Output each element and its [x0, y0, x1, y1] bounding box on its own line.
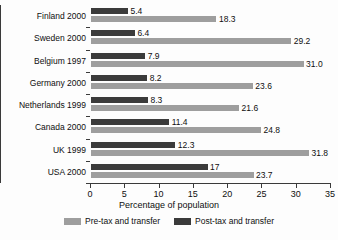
- chart-category-row: Finland 20005.418.3: [90, 5, 330, 27]
- category-label: Finland 2000: [37, 11, 86, 21]
- bar-value-label: 21.6: [242, 104, 259, 113]
- x-axis-tick-label: 5: [122, 189, 127, 200]
- bar-pre-tax: 23.7: [91, 172, 254, 178]
- category-label: Sweden 2000: [34, 33, 86, 43]
- x-axis-tick: [193, 184, 194, 188]
- chart-category-row: Sweden 20006.429.2: [90, 27, 330, 49]
- bar-value-label: 24.8: [264, 126, 281, 135]
- y-axis-line: [0, 5, 1, 183]
- x-axis-tick-label: 30: [291, 189, 301, 200]
- bar-pre-tax: 23.6: [91, 83, 253, 89]
- y-axis-tick: [86, 50, 90, 51]
- chart-category-row: Germany 20008.223.6: [90, 72, 330, 94]
- y-axis-tick: [86, 27, 90, 28]
- category-label: Netherlands 1999: [19, 100, 86, 110]
- x-axis-tick-label: 15: [188, 189, 198, 200]
- bar-value-label: 8.3: [150, 96, 162, 105]
- chart-category-row: Netherlands 19998.321.6: [90, 94, 330, 116]
- category-label: Canada 2000: [35, 122, 86, 132]
- category-label: USA 2000: [48, 167, 86, 177]
- bar-value-label: 29.2: [294, 37, 311, 46]
- bar-value-label: 5.4: [131, 7, 143, 16]
- bar-post-tax: 8.2: [91, 75, 147, 81]
- bar-post-tax: 8.3: [91, 97, 148, 103]
- y-axis-tick: [86, 94, 90, 95]
- category-label: Belgium 1997: [34, 56, 86, 66]
- bar-pre-tax: 24.8: [91, 127, 261, 133]
- bar-value-label: 6.4: [137, 29, 149, 38]
- x-axis-tick: [159, 184, 160, 188]
- x-axis-tick-label: 35: [325, 189, 335, 200]
- category-label: UK 1999: [53, 145, 86, 155]
- bar-pre-tax: 31.8: [91, 150, 309, 156]
- x-axis-tick: [330, 184, 331, 188]
- legend-label: Post-tax and transfer: [195, 216, 274, 226]
- bar-post-tax: 17: [91, 164, 208, 170]
- bar-value-label: 12.3: [178, 140, 195, 149]
- x-axis-tick-label: 25: [256, 189, 266, 200]
- legend-swatch-icon: [174, 218, 191, 225]
- legend-item: Pre-tax and transfer: [64, 216, 160, 226]
- bar-post-tax: 12.3: [91, 142, 175, 148]
- chart-category-row: Canada 200011.424.8: [90, 116, 330, 138]
- bar-value-label: 11.4: [172, 118, 188, 127]
- x-axis-tick: [296, 184, 297, 188]
- bar-value-label: 7.9: [148, 51, 160, 60]
- y-axis-tick: [86, 116, 90, 117]
- legend-label: Pre-tax and transfer: [85, 216, 160, 226]
- bar-pre-tax: 29.2: [91, 38, 291, 44]
- chart-legend: Pre-tax and transferPost-tax and transfe…: [0, 216, 338, 226]
- x-axis-tick: [124, 184, 125, 188]
- legend-swatch-icon: [64, 218, 81, 225]
- bar-post-tax: 6.4: [91, 30, 135, 36]
- bar-value-label: 18.3: [219, 15, 236, 24]
- x-axis-tick-label: 10: [154, 189, 164, 200]
- category-label: Germany 2000: [30, 78, 86, 88]
- x-axis-tick: [261, 184, 262, 188]
- legend-item: Post-tax and transfer: [174, 216, 274, 226]
- bar-value-label: 17: [210, 162, 219, 171]
- x-axis-title: Percentage of population: [0, 200, 338, 211]
- bar-pre-tax: 31.0: [91, 61, 304, 67]
- bar-chart: Finland 20005.418.3Sweden 20006.429.2Bel…: [0, 0, 338, 240]
- bar-pre-tax: 18.3: [91, 16, 216, 22]
- x-axis-tick: [227, 184, 228, 188]
- bar-post-tax: 5.4: [91, 8, 128, 14]
- plot-area: Finland 20005.418.3Sweden 20006.429.2Bel…: [90, 5, 330, 183]
- bar-value-label: 8.2: [150, 73, 162, 82]
- bar-value-label: 23.6: [255, 81, 272, 90]
- bar-value-label: 23.7: [256, 170, 273, 179]
- bar-post-tax: 7.9: [91, 53, 145, 59]
- y-axis-tick: [86, 161, 90, 162]
- chart-category-row: Belgium 19977.931.0: [90, 50, 330, 72]
- bar-value-label: 31.8: [312, 148, 329, 157]
- y-axis-tick: [86, 72, 90, 73]
- y-axis-tick: [86, 139, 90, 140]
- bar-post-tax: 11.4: [91, 119, 169, 125]
- chart-category-row: UK 199912.331.8: [90, 139, 330, 161]
- x-axis-tick-label: 20: [222, 189, 232, 200]
- bar-pre-tax: 21.6: [91, 105, 239, 111]
- x-axis-tick-label: 0: [87, 189, 92, 200]
- bar-value-label: 31.0: [306, 59, 323, 68]
- x-axis-tick: [90, 184, 91, 188]
- chart-category-row: USA 20001723.7: [90, 161, 330, 183]
